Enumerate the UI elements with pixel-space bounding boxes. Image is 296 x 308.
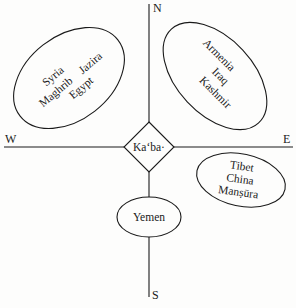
east-label: E bbox=[283, 132, 290, 146]
west-label: W bbox=[5, 132, 17, 146]
north-label: N bbox=[153, 1, 162, 15]
kaaba-node: Ka‘ba· bbox=[124, 122, 174, 172]
region-label-jazira: Jazira bbox=[76, 50, 104, 76]
region-label-egypt: Egypt bbox=[67, 74, 97, 102]
region-southeast: Tibet China Manṣūra bbox=[192, 145, 291, 215]
qibla-diagram: N S W E Ka‘ba· Syria Maghrib Jazira Egyp… bbox=[0, 0, 296, 308]
region-label-yemen: Yemen bbox=[133, 211, 165, 223]
region-south: Yemen bbox=[117, 197, 181, 237]
diagram-canvas: N S W E Ka‘ba· Syria Maghrib Jazira Egyp… bbox=[0, 0, 296, 308]
region-northwest-ellipse bbox=[0, 7, 144, 150]
south-label: S bbox=[152, 288, 159, 302]
kaaba-label: Ka‘ba· bbox=[133, 141, 165, 153]
region-northwest: Syria Maghrib Jazira Egypt bbox=[0, 7, 144, 150]
region-northeast: Armenia Iraq Kashmir bbox=[144, 3, 287, 148]
